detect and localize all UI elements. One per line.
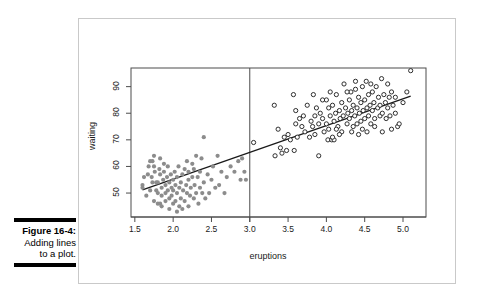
y-tick-label: 90 [111,77,121,95]
x-tick-label: 3.0 [238,224,262,234]
caption-rule-bottom [14,263,76,267]
x-tick-label: 5.0 [391,224,415,234]
x-tick-label: 3.5 [276,224,300,234]
caption-text: Figure 16-4: Adding lines to a plot. [14,222,76,263]
y-axis-title: waiting [87,91,97,181]
series-high [251,69,412,158]
x-tick-label: 4.5 [353,224,377,234]
y-tick-label: 50 [111,183,121,201]
x-axis-title: eruptions [79,251,457,261]
y-tick-label: 70 [111,130,121,148]
x-tick-label: 1.5 [123,224,147,234]
x-tick-label: 2.5 [199,224,223,234]
y-tick-label: 80 [111,103,121,121]
x-tick-label: 4.0 [314,224,338,234]
y-tick-label: 60 [111,156,121,174]
figure-number: Figure 16-4: [14,225,76,237]
figure-caption: Figure 16-4: Adding lines to a plot. [14,218,76,267]
caption-line-2: to a plot. [14,248,76,260]
scatter-plot: eruptions waiting 1.52.02.53.03.54.04.55… [79,19,457,285]
series-low [140,135,248,214]
figure-page: Figure 16-4: Adding lines to a plot. eru… [0,0,478,297]
x-tick-label: 2.0 [161,224,185,234]
plot-canvas [79,19,457,285]
caption-line-1: Adding lines [14,237,76,249]
figure-panel: eruptions waiting 1.52.02.53.03.54.04.55… [78,18,456,284]
